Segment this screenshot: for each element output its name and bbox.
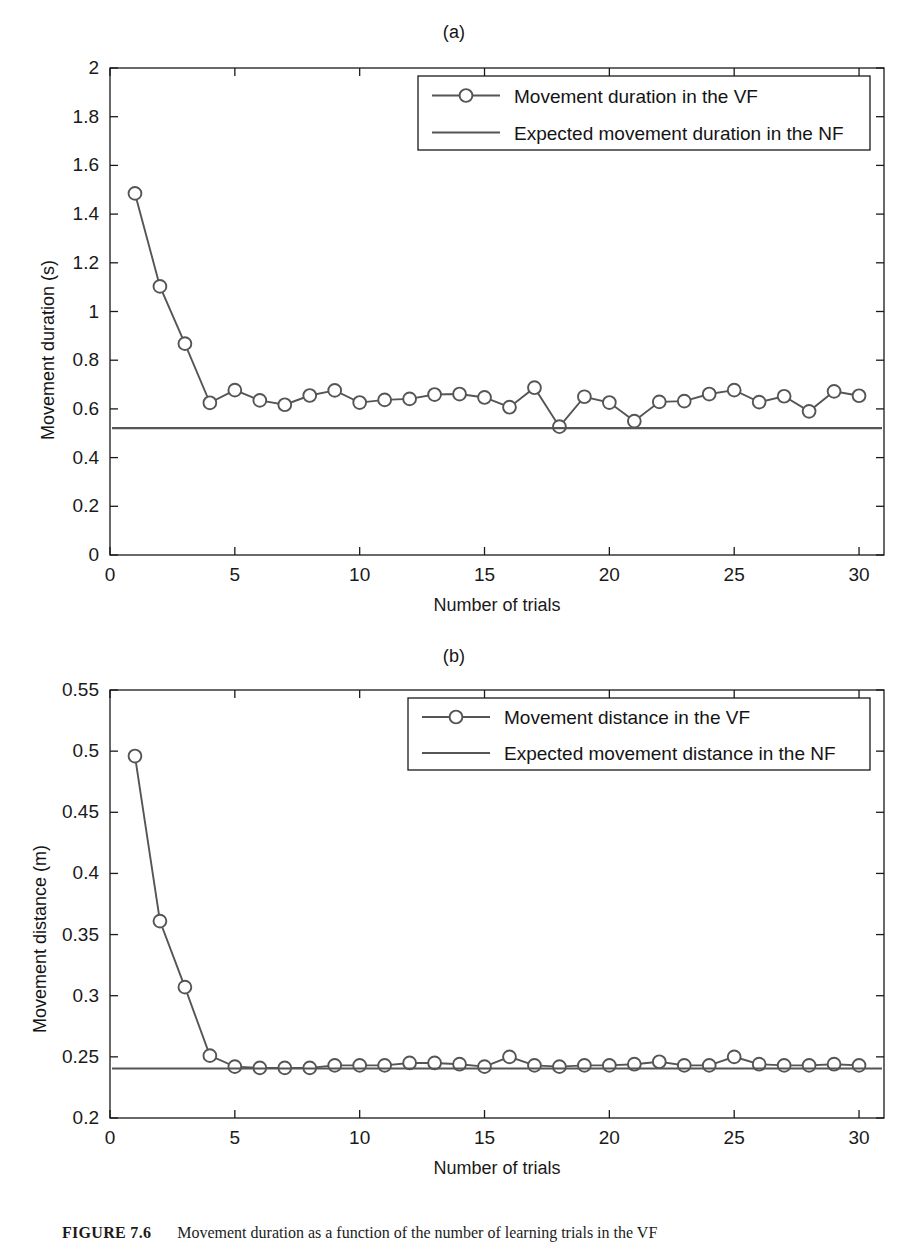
panel-b-data-point xyxy=(728,1050,741,1063)
panel-a-data-point xyxy=(578,390,591,403)
panel-b-x-tick-label: 5 xyxy=(230,1127,241,1148)
panel-a-y-tick-label: 1.2 xyxy=(73,252,99,273)
panel-a-y-tick-label: 1 xyxy=(88,301,99,322)
panel-a-x-axis-label: Number of trials xyxy=(433,595,560,615)
panel-b-x-tick-label: 25 xyxy=(724,1127,745,1148)
figure-container: (a) Movement duration (s) 00.20.40.60.81… xyxy=(0,0,908,1243)
panel-b-y-tick-label: 0.2 xyxy=(73,1107,99,1128)
panel-a-y-tick-label: 0.8 xyxy=(73,349,99,370)
panel-b-data-point xyxy=(228,1060,241,1073)
panel-b-x-tick-label: 20 xyxy=(599,1127,620,1148)
panel-b-x-tick-label: 10 xyxy=(349,1127,370,1148)
panel-a-data-point xyxy=(203,396,216,409)
panel-a-data-point xyxy=(703,388,716,401)
panel-a-data-point xyxy=(353,396,366,409)
panel-b-legend-swatch-marker xyxy=(450,711,463,724)
panel-a-legend-label: Movement duration in the VF xyxy=(514,86,758,107)
panel-a-data-point xyxy=(328,384,341,397)
panel-b-x-tick-label: 15 xyxy=(474,1127,495,1148)
panel-b-data-point xyxy=(353,1059,366,1072)
panel-b-data-point xyxy=(328,1059,341,1072)
panel-b-data-point xyxy=(203,1049,216,1062)
panel-a-data-point xyxy=(129,187,142,200)
panel-b-data-point xyxy=(378,1059,391,1072)
panel-a-x-tick-label: 10 xyxy=(349,564,370,585)
panel-b-y-tick-label: 0.5 xyxy=(73,740,99,761)
panel-a-x-tick-label: 30 xyxy=(848,564,869,585)
panel-a-x-tick-label: 5 xyxy=(230,564,241,585)
panel-a-y-tick-label: 0.6 xyxy=(73,398,99,419)
panel-b-y-tick-label: 0.55 xyxy=(62,679,99,700)
panel-b-data-point xyxy=(853,1059,866,1072)
panel-a-data-point xyxy=(828,385,841,398)
panel-a-legend-swatch-marker xyxy=(460,89,473,102)
panel-b-y-tick-label: 0.25 xyxy=(62,1046,99,1067)
panel-b-x-tick-label: 0 xyxy=(105,1127,116,1148)
panel-a-y-tick-label: 0 xyxy=(88,544,99,565)
panel-a-y-tick-label: 0.2 xyxy=(73,495,99,516)
panel-a: (a) Movement duration (s) 00.20.40.60.81… xyxy=(0,0,908,620)
panel-b-x-axis-label: Number of trials xyxy=(433,1158,560,1178)
panel-a-data-point xyxy=(179,337,192,350)
panel-a-data-point xyxy=(428,388,441,401)
panel-b-plot: 0.20.250.30.350.40.450.50.55051015202530… xyxy=(0,628,908,1203)
panel-b-data-point xyxy=(154,915,167,928)
panel-b-y-tick-label: 0.45 xyxy=(62,801,99,822)
panel-a-data-point xyxy=(253,394,266,407)
panel-a-data-point xyxy=(553,420,566,433)
panel-a-data-point xyxy=(453,388,466,401)
panel-a-x-tick-label: 15 xyxy=(474,564,495,585)
panel-b-y-tick-label: 0.3 xyxy=(73,985,99,1006)
panel-a-x-tick-label: 0 xyxy=(105,564,116,585)
panel-a-data-point xyxy=(678,395,691,408)
panel-b-x-tick-label: 30 xyxy=(848,1127,869,1148)
panel-a-x-tick-label: 20 xyxy=(599,564,620,585)
panel-a-data-point xyxy=(278,398,291,411)
panel-a-data-point xyxy=(228,384,241,397)
figure-caption: FIGURE 7.6Movement duration as a functio… xyxy=(62,1222,882,1243)
panel-a-data-point xyxy=(628,415,641,428)
panel-b-legend-label: Movement distance in the VF xyxy=(504,707,750,728)
panel-a-data-point xyxy=(603,396,616,409)
panel-b-data-point xyxy=(478,1060,491,1073)
panel-b-data-point xyxy=(179,981,192,994)
panel-a-data-point xyxy=(478,391,491,404)
panel-a-y-tick-label: 2 xyxy=(88,57,99,78)
panel-a-data-point xyxy=(753,396,766,409)
panel-a-y-tick-label: 1.8 xyxy=(73,106,99,127)
panel-a-data-point xyxy=(853,389,866,402)
panel-a-data-point xyxy=(378,393,391,406)
panel-a-data-point xyxy=(528,381,541,394)
panel-a-data-point xyxy=(154,280,167,293)
panel-a-data-point xyxy=(653,395,666,408)
figure-caption-number: FIGURE 7.6 xyxy=(62,1224,151,1241)
panel-b-legend-label: Expected movement distance in the NF xyxy=(504,743,836,764)
panel-b-data-point xyxy=(653,1055,666,1068)
panel-a-data-point xyxy=(803,405,816,418)
panel-b: (b) Movement distance (m) 0.20.250.30.35… xyxy=(0,628,908,1203)
panel-a-y-tick-label: 1.6 xyxy=(73,154,99,175)
panel-a-data-line xyxy=(135,193,859,426)
panel-a-x-tick-label: 25 xyxy=(724,564,745,585)
panel-b-y-tick-label: 0.4 xyxy=(73,862,100,883)
panel-b-data-point xyxy=(129,750,142,763)
panel-b-data-point xyxy=(503,1050,516,1063)
panel-b-y-tick-label: 0.35 xyxy=(62,924,99,945)
panel-b-data-point xyxy=(578,1059,591,1072)
panel-a-plot: 00.20.40.60.811.21.41.61.82051015202530N… xyxy=(0,0,908,620)
panel-a-y-tick-label: 1.4 xyxy=(73,203,100,224)
panel-a-data-point xyxy=(728,384,741,397)
panel-a-data-point xyxy=(778,390,791,403)
panel-a-legend-label: Expected movement duration in the NF xyxy=(514,123,844,144)
panel-b-data-point xyxy=(603,1059,616,1072)
panel-a-y-tick-label: 0.4 xyxy=(73,447,100,468)
panel-a-data-point xyxy=(503,401,516,414)
panel-a-data-point xyxy=(403,393,416,406)
panel-b-data-point xyxy=(528,1059,541,1072)
panel-b-data-point xyxy=(678,1059,691,1072)
figure-caption-text: Movement duration as a function of the n… xyxy=(177,1224,657,1241)
panel-b-data-line xyxy=(135,756,859,1068)
panel-b-data-point xyxy=(553,1060,566,1073)
panel-b-data-point xyxy=(778,1059,791,1072)
panel-b-data-point xyxy=(803,1059,816,1072)
